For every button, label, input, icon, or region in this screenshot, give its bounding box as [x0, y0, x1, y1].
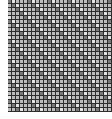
- grid-cell: [108, 108, 112, 112]
- cell-grid: [8, 0, 112, 112]
